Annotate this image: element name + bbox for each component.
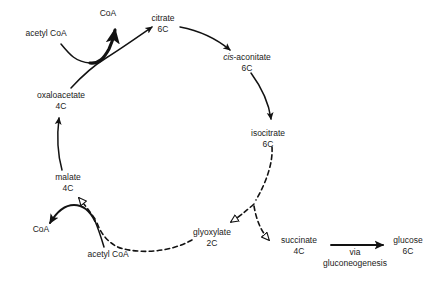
edge-oxaloacetate-to-citrate	[71, 27, 152, 88]
cis-aconitate-suffix: -aconitate	[234, 52, 271, 62]
node-glyoxylate: glyoxylate 2C	[193, 227, 231, 248]
node-isocitrate: isocitrate 6C	[251, 128, 285, 149]
edge-citrate-to-cis-aconitate	[180, 27, 230, 50]
edge-glyoxylate-to-junction	[97, 223, 192, 251]
edge-fork-to-glyoxylate	[231, 204, 254, 222]
edge-cis-aconitate-to-isocitrate	[251, 73, 271, 119]
node-cis-aconitate: cis-aconitate 6C	[223, 52, 271, 73]
node-coa-top: CoA	[100, 8, 117, 19]
node-cis-aconitate-name: cis-aconitate	[223, 52, 271, 63]
node-citrate: citrate 6C	[151, 13, 174, 34]
glyoxylate-cycle-diagram: acetyl CoA CoA citrate 6C cis-aconitate …	[0, 0, 441, 286]
node-acetyl-coa-top: acetyl CoA	[25, 28, 66, 39]
node-succinate: succinate 4C	[281, 235, 317, 256]
node-oxaloacetate: oxaloacetate 4C	[37, 90, 85, 111]
edge-junction-to-coa-bottom	[50, 205, 95, 223]
edge-malate-to-oxaloacetate	[58, 118, 62, 170]
gluconeogenesis-label: via gluconeogenesis	[323, 247, 387, 268]
node-coa-bottom: CoA	[33, 224, 50, 235]
node-glucose: glucose 6C	[393, 235, 422, 256]
edge-junction-to-malate	[79, 198, 95, 219]
edge-acetylcoa-to-junction	[61, 44, 90, 63]
cis-italic-prefix: cis	[223, 52, 233, 62]
node-acetyl-coa-bottom: acetyl CoA	[87, 249, 128, 260]
edge-junction-to-coa	[90, 30, 115, 63]
edge-fork-to-succinate	[254, 206, 269, 240]
node-malate: malate 4C	[55, 172, 81, 193]
edge-isocitrate-to-fork	[256, 147, 272, 200]
